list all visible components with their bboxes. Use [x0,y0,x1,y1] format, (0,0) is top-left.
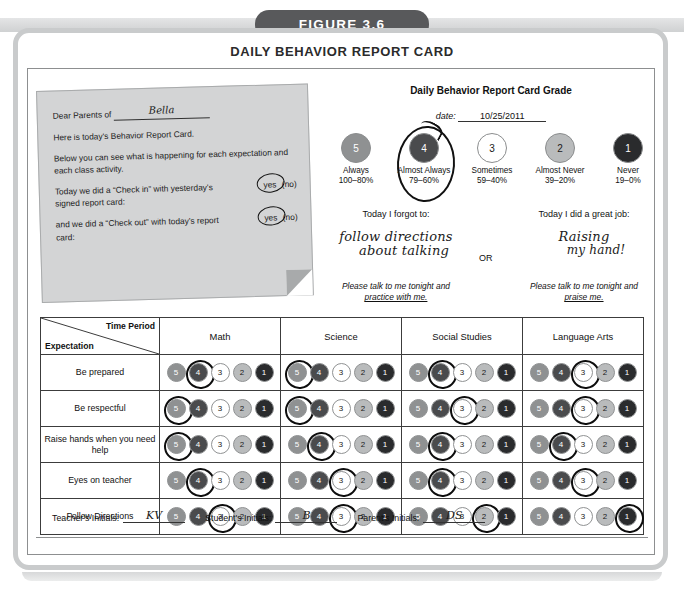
grade-scale-option-4[interactable]: 4Almost Always79–60% [392,133,456,201]
rating-bubble-4[interactable]: 4 [552,363,571,382]
checkin-answer-group[interactable]: yes (no) [260,177,297,192]
rating-bubble-2[interactable]: 2 [233,471,252,490]
rating-bubble-4[interactable]: 4 [552,399,571,418]
initials-field-1[interactable]: B [275,509,337,523]
rating-bubble-2[interactable]: 2 [475,435,494,454]
rating-bubble-3[interactable]: 3 [332,363,351,382]
rating-bubble-1[interactable]: 1 [618,471,637,490]
rating-bubble-5[interactable]: 5 [167,399,186,418]
rating-bubble-4[interactable]: 4 [189,471,208,490]
rating-bubble-4[interactable]: 4 [431,471,450,490]
rating-bubble-5[interactable]: 5 [167,435,186,454]
grade-scale-option-1[interactable]: 1Never19–0% [596,133,660,201]
rating-bubble-5[interactable]: 5 [288,399,307,418]
grade-scale-option-2[interactable]: 2Almost Never39–20% [528,133,592,201]
rating-bubble-2[interactable]: 2 [596,363,615,382]
grade-scale-option-3[interactable]: 3Sometimes59–40% [460,133,524,201]
rating-bubble-4[interactable]: 4 [431,435,450,454]
rating-bubble-3[interactable]: 3 [574,471,593,490]
grade-scale-option-5[interactable]: 5Always100–80% [324,133,388,201]
rating-bubble-4[interactable]: 4 [552,435,571,454]
rating-bubble-1[interactable]: 1 [255,471,274,490]
rating-bubble-1[interactable]: 1 [497,471,516,490]
great-job-handwriting[interactable]: Raising my hand! [504,230,664,256]
rating-bubble-2[interactable]: 2 [354,471,373,490]
rating-bubble-5[interactable]: 5 [409,363,428,382]
checkin-yes-option[interactable]: yes [260,177,279,192]
rating-bubble-5[interactable]: 5 [288,435,307,454]
rating-bubble-4[interactable]: 4 [189,435,208,454]
rating-bubble-2[interactable]: 2 [596,435,615,454]
grade-bubble-2[interactable]: 2 [545,133,575,163]
date-value[interactable]: 10/25/2011 [458,111,546,122]
rating-bubble-4[interactable]: 4 [310,363,329,382]
initials-field-0[interactable]: KV [123,509,185,523]
rating-bubble-1[interactable]: 1 [376,435,395,454]
rating-bubble-1[interactable]: 1 [376,399,395,418]
rating-bubble-4[interactable]: 4 [552,471,571,490]
rating-bubble-3[interactable]: 3 [332,399,351,418]
rating-bubble-5[interactable]: 5 [530,471,549,490]
rating-bubble-4[interactable]: 4 [189,363,208,382]
grade-scale[interactable]: 5Always100–80%4Almost Always79–60%3Somet… [324,133,660,201]
rating-bubble-2[interactable]: 2 [233,399,252,418]
rating-bubble-5[interactable]: 5 [409,435,428,454]
rating-bubble-2[interactable]: 2 [475,399,494,418]
initials-field-2[interactable]: DS [423,509,485,523]
rating-bubble-1[interactable]: 1 [497,399,516,418]
rating-bubble-4[interactable]: 4 [310,435,329,454]
rating-bubble-3[interactable]: 3 [211,435,230,454]
rating-bubble-5[interactable]: 5 [530,435,549,454]
rating-bubble-2[interactable]: 2 [233,435,252,454]
rating-bubble-1[interactable]: 1 [618,399,637,418]
grade-bubble-5[interactable]: 5 [341,133,371,163]
grade-bubble-1[interactable]: 1 [613,133,643,163]
checkout-answer-group[interactable]: yes (no) [261,210,298,225]
rating-bubble-4[interactable]: 4 [310,471,329,490]
rating-bubble-1[interactable]: 1 [497,435,516,454]
rating-bubble-1[interactable]: 1 [255,399,274,418]
rating-bubble-3[interactable]: 3 [453,435,472,454]
rating-bubble-3[interactable]: 3 [332,435,351,454]
rating-bubble-2[interactable]: 2 [596,471,615,490]
rating-bubble-1[interactable]: 1 [376,471,395,490]
rating-bubble-4[interactable]: 4 [189,399,208,418]
rating-bubble-3[interactable]: 3 [574,399,593,418]
rating-bubble-1[interactable]: 1 [497,363,516,382]
rating-bubble-4[interactable]: 4 [431,399,450,418]
rating-bubble-2[interactable]: 2 [354,399,373,418]
rating-bubble-5[interactable]: 5 [167,471,186,490]
rating-bubble-3[interactable]: 3 [332,471,351,490]
rating-bubble-1[interactable]: 1 [618,363,637,382]
rating-bubble-3[interactable]: 3 [211,399,230,418]
rating-bubble-5[interactable]: 5 [288,363,307,382]
grade-bubble-3[interactable]: 3 [477,133,507,163]
rating-bubble-5[interactable]: 5 [409,399,428,418]
rating-bubble-2[interactable]: 2 [354,363,373,382]
rating-bubble-4[interactable]: 4 [431,363,450,382]
rating-bubble-3[interactable]: 3 [211,363,230,382]
rating-bubble-2[interactable]: 2 [233,363,252,382]
rating-bubble-3[interactable]: 3 [453,471,472,490]
rating-bubble-5[interactable]: 5 [530,363,549,382]
rating-bubble-2[interactable]: 2 [475,471,494,490]
rating-bubble-3[interactable]: 3 [574,435,593,454]
rating-bubble-5[interactable]: 5 [167,363,186,382]
rating-bubble-3[interactable]: 3 [574,363,593,382]
rating-bubble-2[interactable]: 2 [596,399,615,418]
rating-bubble-4[interactable]: 4 [310,399,329,418]
rating-bubble-1[interactable]: 1 [376,363,395,382]
rating-bubble-3[interactable]: 3 [453,399,472,418]
rating-bubble-1[interactable]: 1 [255,435,274,454]
rating-bubble-2[interactable]: 2 [475,363,494,382]
rating-bubble-1[interactable]: 1 [618,435,637,454]
rating-bubble-5[interactable]: 5 [409,471,428,490]
forgot-handwriting[interactable]: follow directions about talking [316,230,476,257]
checkout-yes-option[interactable]: yes [261,211,280,226]
rating-bubble-5[interactable]: 5 [288,471,307,490]
student-name-field[interactable]: Bella [113,102,209,120]
rating-bubble-3[interactable]: 3 [211,471,230,490]
rating-bubble-3[interactable]: 3 [453,363,472,382]
rating-bubble-2[interactable]: 2 [354,435,373,454]
rating-bubble-5[interactable]: 5 [530,399,549,418]
